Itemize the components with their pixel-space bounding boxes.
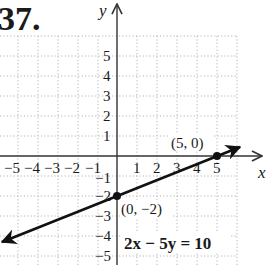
x-tick-neg4: −4 (24, 160, 40, 176)
y-tick-labels-negative: −1 −2 −3 −4 −5 (95, 170, 111, 264)
y-tick-neg5: −5 (95, 248, 111, 264)
x-tick-5: 5 (213, 160, 221, 176)
y-tick-4: 4 (103, 68, 111, 84)
x-tick-neg3: −3 (44, 160, 60, 176)
problem-number: 37. (0, 0, 41, 37)
y-tick-labels-positive: 5 4 3 2 1 (103, 48, 111, 144)
y-tick-3: 3 (103, 88, 111, 104)
x-axis-label: x (257, 163, 266, 182)
point-y-intercept (113, 192, 121, 200)
y-tick-neg4: −4 (95, 228, 111, 244)
graph-figure: 37. y x 5 4 3 2 1 −1 −2 −3 −4 −5 −5 −4 −… (0, 0, 268, 265)
y-tick-5: 5 (103, 48, 111, 64)
x-tick-2: 2 (153, 160, 161, 176)
equation-label: 2x − 5y = 10 (124, 234, 211, 253)
point-x-intercept (213, 152, 221, 160)
x-tick-1: 1 (133, 160, 141, 176)
y-tick-neg3: −3 (95, 208, 111, 224)
y-tick-2: 2 (103, 108, 111, 124)
y-axis-label: y (97, 1, 107, 20)
x-tick-neg5: −5 (4, 160, 20, 176)
point-label-y-intercept: (0, −2) (121, 201, 162, 218)
point-label-x-intercept: (5, 0) (171, 135, 204, 152)
x-tick-neg1: −1 (85, 160, 101, 176)
y-tick-1: 1 (103, 128, 111, 144)
x-tick-neg2: −2 (64, 160, 80, 176)
